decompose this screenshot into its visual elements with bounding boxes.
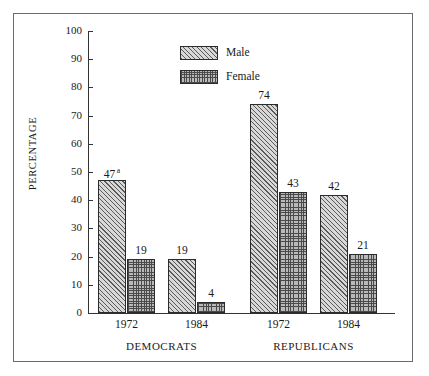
bar-value-number: 19 [176, 244, 188, 256]
legend-label-male: Male [226, 45, 250, 60]
bar-value-number: 19 [135, 244, 147, 256]
y-tick-label-90: 90 [48, 53, 82, 64]
y-tick-label-100: 100 [48, 25, 82, 36]
bar-republicans-1972-female [279, 192, 307, 313]
x-tick-label-3: 1984 [322, 318, 376, 331]
legend-label-female: Female [226, 69, 260, 84]
bar-value-label: 42 [307, 180, 361, 192]
group-label-republicans: REPUBLICANS [239, 340, 389, 352]
y-tick-100 [88, 31, 93, 32]
y-tick-label-20: 20 [48, 251, 82, 262]
y-axis-title: PERCENTAGE [27, 94, 38, 214]
bar-value-number: 42 [328, 180, 340, 192]
x-tick-label-1: 1984 [170, 318, 224, 331]
bar-value-label: 21 [336, 239, 390, 251]
bar-value-number: 4 [208, 287, 214, 299]
bar-republicans-1984-male [320, 195, 348, 313]
bar-value-number: 74 [258, 89, 270, 101]
bar-value-label: 19 [155, 244, 209, 256]
y-tick-90 [88, 59, 93, 60]
bar-republicans-1972-male [250, 104, 278, 313]
y-tick-80 [88, 87, 93, 88]
bar-value-number: 47 [104, 168, 116, 180]
bar-value-label: 74 [237, 89, 291, 101]
bar-republicans-1984-female [349, 254, 377, 313]
y-tick-label-40: 40 [48, 194, 82, 205]
group-label-democrats: DEMOCRATS [87, 340, 237, 352]
x-tick-label-0: 1972 [100, 318, 154, 331]
y-tick-label-30: 30 [48, 222, 82, 233]
y-tick-60 [88, 144, 93, 145]
y-tick-70 [88, 116, 93, 117]
y-tick-40 [88, 200, 93, 201]
bar-value-number: 43 [287, 177, 299, 189]
x-tick-label-2: 1972 [252, 318, 306, 331]
bar-democrats-1972-female [127, 259, 155, 313]
y-tick-label-80: 80 [48, 81, 82, 92]
y-tick-label-10: 10 [48, 279, 82, 290]
y-tick-30 [88, 228, 93, 229]
bar-democrats-1984-female [197, 302, 225, 313]
bar-value-superscript: a [117, 166, 120, 175]
bar-value-label: 4 [184, 287, 238, 299]
y-tick-label-60: 60 [48, 138, 82, 149]
y-tick-label-0: 0 [48, 307, 82, 318]
y-tick-10 [88, 285, 93, 286]
y-tick-0 [88, 313, 93, 314]
bar-value-number: 21 [357, 239, 369, 251]
legend-swatch-female-icon [180, 70, 218, 84]
y-tick-label-50: 50 [48, 166, 82, 177]
bar-value-label: 47a [85, 165, 139, 180]
y-tick-label-70: 70 [48, 110, 82, 121]
y-tick-20 [88, 257, 93, 258]
bar-chart: PERCENTAGE 1009080706050403020100 47a191… [0, 0, 429, 376]
legend-swatch-male-icon [180, 46, 218, 60]
x-axis-line [88, 313, 395, 314]
